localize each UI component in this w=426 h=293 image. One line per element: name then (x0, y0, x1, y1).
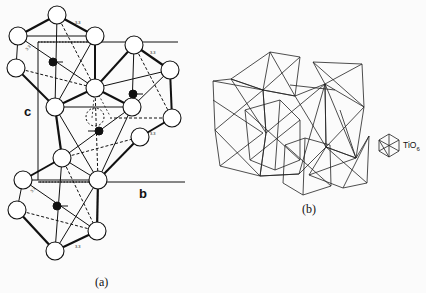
svg-text:3.3: 3.3 (75, 244, 81, 249)
caption-a: (a) (95, 275, 108, 290)
octahedron-icon (379, 134, 399, 157)
caption-b: (b) (302, 202, 316, 217)
axis-label-b: b (139, 186, 147, 201)
svg-text:3.3: 3.3 (150, 131, 156, 136)
svg-text:3.3: 3.3 (29, 185, 37, 193)
axis-label-c: c (24, 104, 31, 119)
panel-a-structure: 3.3 3.3 3.3 3.3 3.3 3.3 (0, 0, 213, 293)
svg-text:3.3: 3.3 (75, 20, 81, 25)
legend-label: TiO6 (403, 140, 420, 152)
svg-text:3.3: 3.3 (150, 50, 156, 55)
